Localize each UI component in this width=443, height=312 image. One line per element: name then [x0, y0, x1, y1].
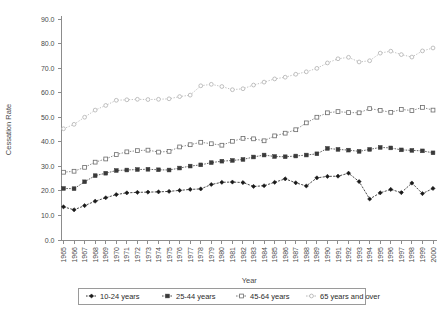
data-point: [294, 72, 298, 76]
data-point: [62, 170, 66, 174]
x-tick-label: 1987: [292, 247, 299, 263]
data-point: [146, 167, 150, 171]
data-point: [209, 142, 213, 146]
x-tick-label: 1967: [81, 247, 88, 263]
data-point: [347, 55, 351, 59]
data-point: [273, 77, 277, 81]
data-point: [114, 153, 118, 157]
data-point: [315, 66, 319, 70]
x-tick-label: 1995: [377, 247, 384, 263]
data-point: [378, 146, 382, 150]
data-point: [62, 187, 66, 191]
data-point: [83, 115, 87, 119]
data-point: [336, 57, 340, 61]
legend-label: 25-44 years: [176, 292, 216, 301]
data-point: [83, 204, 87, 208]
data-point: [188, 143, 192, 147]
data-point: [252, 83, 256, 87]
data-point: [220, 143, 224, 147]
data-point: [241, 180, 245, 184]
data-point: [125, 168, 129, 172]
data-point: [389, 110, 393, 114]
data-point: [336, 110, 340, 114]
data-point: [421, 49, 425, 53]
y-tick-label: 70.0: [41, 65, 55, 72]
x-tick-label: 1968: [92, 247, 99, 263]
data-point: [378, 191, 382, 195]
data-point: [431, 151, 435, 155]
data-point: [262, 153, 266, 157]
data-point: [178, 166, 182, 170]
data-point: [283, 155, 287, 159]
data-point: [368, 197, 372, 201]
data-point: [357, 149, 361, 153]
x-tick-label: 1971: [123, 247, 130, 263]
data-point: [136, 97, 140, 101]
data-point: [431, 186, 435, 190]
data-point: [399, 53, 403, 57]
data-point: [368, 59, 372, 63]
x-axis-title: Year: [242, 276, 258, 285]
data-point: [357, 60, 361, 64]
data-point: [93, 174, 97, 178]
y-axis-title: Cessation Rate: [4, 104, 13, 155]
data-point: [220, 159, 224, 163]
data-point: [209, 161, 213, 165]
x-tick-label: 1969: [102, 247, 109, 263]
x-tick-label: 1992: [345, 247, 352, 263]
data-point: [283, 177, 287, 181]
data-point: [146, 190, 150, 194]
data-point: [199, 84, 203, 88]
x-tick-label: 1979: [208, 247, 215, 263]
data-point: [357, 179, 361, 183]
data-point: [336, 174, 340, 178]
y-tick-label: 50.0: [41, 114, 55, 121]
chart-canvas: 0.010.020.030.040.050.060.070.080.090.01…: [0, 0, 443, 312]
x-tick-label: 1993: [356, 247, 363, 263]
x-tick-label: 1988: [303, 247, 310, 263]
data-point: [310, 294, 314, 298]
data-point: [389, 49, 393, 53]
data-point: [104, 157, 108, 161]
data-point: [399, 107, 403, 111]
data-point: [368, 107, 372, 111]
data-point: [431, 108, 435, 112]
series-line: [64, 48, 434, 129]
data-point: [167, 149, 171, 153]
data-point: [399, 148, 403, 152]
x-tick-label: 1983: [250, 247, 257, 263]
x-tick-label: 1994: [366, 247, 373, 263]
data-point: [220, 85, 224, 89]
data-point: [326, 61, 330, 65]
data-point: [146, 98, 150, 102]
x-tick-label: 1989: [313, 247, 320, 263]
data-point: [273, 134, 277, 138]
data-point: [114, 169, 118, 173]
legend-label: 45-64 years: [250, 292, 290, 301]
data-point: [157, 150, 161, 154]
data-point: [209, 82, 213, 86]
data-point: [231, 139, 235, 143]
data-point: [273, 180, 277, 184]
data-point: [357, 111, 361, 115]
x-tick-label: 1981: [229, 247, 236, 263]
x-tick-label: 1991: [335, 247, 342, 263]
legend-label: 10-24 years: [100, 292, 140, 301]
data-point: [294, 181, 298, 185]
data-point: [431, 46, 435, 50]
data-point: [93, 108, 97, 112]
data-point: [304, 70, 308, 74]
data-point: [241, 136, 245, 140]
series-line: [64, 173, 434, 210]
x-tick-label: 1966: [71, 247, 78, 263]
y-tick-label: 60.0: [41, 89, 55, 96]
data-point: [178, 188, 182, 192]
data-point: [378, 108, 382, 112]
data-point: [262, 80, 266, 84]
data-point: [251, 184, 255, 188]
data-point: [421, 149, 425, 153]
data-point: [262, 184, 266, 188]
data-point: [230, 180, 234, 184]
x-tick-label: 1975: [166, 247, 173, 263]
data-point: [326, 147, 330, 151]
